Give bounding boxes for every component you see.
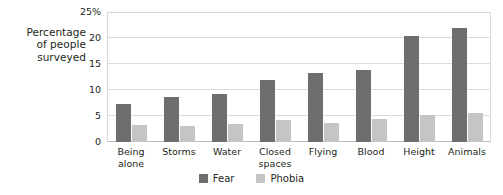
x-axis-label-line: Water bbox=[203, 146, 251, 158]
x-axis-label: Closedspaces bbox=[251, 146, 299, 169]
chart-legend: FearPhobia bbox=[0, 173, 503, 184]
legend-item-phobia: Phobia bbox=[256, 173, 304, 184]
plot-area bbox=[107, 12, 491, 142]
x-axis-label-line: Height bbox=[395, 146, 443, 158]
gridline bbox=[108, 63, 490, 64]
legend-swatch-icon bbox=[256, 174, 265, 183]
legend-label: Fear bbox=[213, 173, 235, 184]
gridline bbox=[108, 37, 490, 38]
gridline bbox=[108, 141, 490, 142]
y-axis-tick-label: 5 bbox=[71, 111, 101, 121]
x-axis-label: Animals bbox=[443, 146, 491, 158]
x-axis-label-line: spaces bbox=[251, 158, 299, 170]
y-axis-tick-label: 10 bbox=[71, 85, 101, 95]
y-axis-tick-label: 20 bbox=[71, 33, 101, 43]
gridline bbox=[108, 115, 490, 116]
legend-swatch-icon bbox=[199, 174, 208, 183]
y-axis-tick-label: 15 bbox=[71, 59, 101, 69]
y-axis-tick-label: 0 bbox=[71, 137, 101, 147]
gridlines-layer bbox=[108, 13, 490, 141]
x-axis-label-line: Being bbox=[107, 146, 155, 158]
y-axis-title: Percentageof peoplesurveyed bbox=[4, 26, 86, 63]
x-axis-label: Blood bbox=[347, 146, 395, 158]
x-axis-label: Beingalone bbox=[107, 146, 155, 169]
legend-item-fear: Fear bbox=[199, 173, 235, 184]
x-axis-label-line: alone bbox=[107, 158, 155, 170]
bar-chart-figure: Percentageof peoplesurveyed 0510152025% … bbox=[0, 0, 503, 195]
x-axis-label: Storms bbox=[155, 146, 203, 158]
gridline bbox=[108, 89, 490, 90]
x-axis-label-line: Animals bbox=[443, 146, 491, 158]
y-axis-tick-label: 25% bbox=[71, 7, 101, 17]
x-axis-label-line: Flying bbox=[299, 146, 347, 158]
x-axis-label: Flying bbox=[299, 146, 347, 158]
x-axis-label-line: Storms bbox=[155, 146, 203, 158]
legend-label: Phobia bbox=[270, 173, 304, 184]
x-axis-category-labels: BeingaloneStormsWaterClosedspacesFlyingB… bbox=[107, 146, 491, 172]
x-axis-label-line: Blood bbox=[347, 146, 395, 158]
x-axis-label: Height bbox=[395, 146, 443, 158]
x-axis-label: Water bbox=[203, 146, 251, 158]
x-axis-label-line: Closed bbox=[251, 146, 299, 158]
